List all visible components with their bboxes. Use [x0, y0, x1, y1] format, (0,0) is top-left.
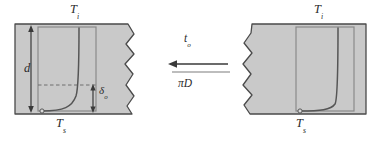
- fraction-numerator: to: [184, 33, 191, 47]
- center-transition-group: [168, 60, 230, 72]
- right-block-shape: [243, 24, 366, 114]
- left-pointing-arrow: [168, 60, 228, 67]
- left-block-group: [15, 18, 134, 114]
- figure-container: Ti Ts d δo Ti Ts to πD: [0, 0, 383, 141]
- left-label-thickness: d: [24, 62, 30, 75]
- right-block-group: [243, 24, 366, 114]
- fraction-denominator: πD: [178, 78, 192, 90]
- left-profile-origin-marker: [40, 109, 44, 113]
- left-label-surface-bottom: Ts: [56, 117, 66, 132]
- right-label-surface-bottom: Ts: [296, 117, 306, 132]
- right-profile-origin-marker: [298, 109, 302, 113]
- left-label-boundary-layer: δo: [99, 85, 108, 99]
- left-label-surface-top: Ti: [70, 3, 79, 18]
- right-label-surface-top: Ti: [314, 3, 323, 18]
